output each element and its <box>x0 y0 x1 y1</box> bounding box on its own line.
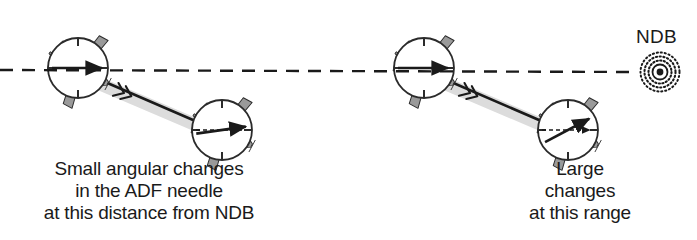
caption-small-angular-changes: Small angular changes in the ADF needle … <box>4 158 294 224</box>
caption-large-changes: Large changes at this range <box>470 158 690 224</box>
far-aircraft-2-adf-gauge <box>192 100 252 160</box>
near-aircraft-1-adf-gauge <box>394 38 454 98</box>
caption-right-line-3: at this range <box>470 202 690 224</box>
caption-right-line-1: Large <box>470 158 690 180</box>
caption-left-line-2: in the ADF needle <box>4 180 294 202</box>
scenario-near-ndb <box>377 19 616 180</box>
scenario-far-from-ndb <box>31 19 270 180</box>
caption-left-line-3: at this distance from NDB <box>4 202 294 224</box>
far-aircraft-1-adf-gauge <box>48 38 108 98</box>
ndb-label: NDB <box>636 26 677 48</box>
caption-right-line-2: changes <box>470 180 690 202</box>
near-aircraft-2-adf-gauge <box>538 100 598 160</box>
adf-ndb-diagram: NDB Small angular changes in the ADF nee… <box>0 0 697 240</box>
ndb-beacon-icon <box>641 53 680 92</box>
caption-left-line-1: Small angular changes <box>4 158 294 180</box>
